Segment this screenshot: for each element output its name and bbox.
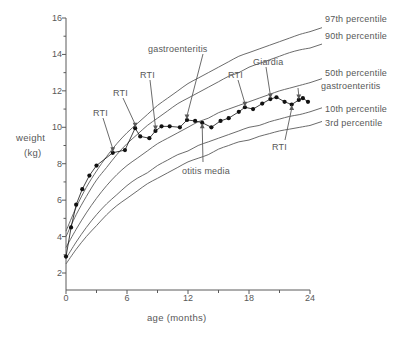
percentile-leader-line <box>310 121 322 125</box>
annotation-gastroenteritis-1: gastroenteritis <box>148 44 208 54</box>
data-point-marker <box>237 110 241 114</box>
data-point-marker <box>282 100 286 104</box>
data-point-marker <box>274 95 278 99</box>
side-label-50th: 50th percentile <box>325 68 387 78</box>
annotation-leader-rti <box>238 80 245 103</box>
data-point-marker <box>218 119 222 123</box>
annotation-rti-3: RTI <box>140 70 155 80</box>
data-point-marker <box>168 124 172 128</box>
data-point-marker <box>87 173 91 177</box>
annotation-leader-rti <box>103 118 113 149</box>
data-point-marker <box>251 107 255 111</box>
data-point-marker <box>138 134 142 138</box>
y-tick-2: 2 <box>44 268 62 278</box>
y-tick-8: 8 <box>44 159 62 169</box>
data-point-marker <box>260 102 264 106</box>
data-point-marker <box>123 148 127 152</box>
annotation-rti-2: RTI <box>113 88 128 98</box>
annotation-rti-1: RTI <box>93 108 108 118</box>
side-label-97th: 97th percentile <box>325 14 387 24</box>
percentile-leader-line <box>310 44 322 48</box>
growth-chart-figure: 16 14 12 10 8 6 4 2 0 6 12 18 24 weight … <box>0 0 402 337</box>
annotation-leader-rti <box>150 80 155 127</box>
y-tick-12: 12 <box>44 86 62 96</box>
y-tick-6: 6 <box>44 195 62 205</box>
percentile-leader-line <box>310 108 322 112</box>
side-label-3rd: 3rd percentile <box>325 118 382 128</box>
data-point-marker <box>227 116 231 120</box>
annotation-otitis-media: otitis media <box>182 166 230 176</box>
x-tick-0: 0 <box>56 293 76 303</box>
y-axis-title-line2: (kg) <box>24 147 42 158</box>
y-axis-title-line1: weight <box>16 132 45 143</box>
annotation-rti-4: RTI <box>228 70 243 80</box>
side-label-gastroenteritis-right: gastroenteritis <box>321 81 381 91</box>
x-axis-title: age (months) <box>147 312 207 323</box>
x-tick-6: 6 <box>117 293 137 303</box>
data-point-marker <box>94 163 98 167</box>
data-point-marker <box>64 255 68 259</box>
annotation-leader-giardia <box>266 67 270 95</box>
data-point-marker <box>74 203 78 207</box>
x-tick-18: 18 <box>239 293 259 303</box>
data-point-marker <box>69 225 73 229</box>
percentile-leader-line <box>310 28 322 32</box>
y-tick-16: 16 <box>44 13 62 23</box>
data-point-marker <box>193 119 197 123</box>
y-tick-10: 10 <box>44 122 62 132</box>
y-tick-4: 4 <box>44 232 62 242</box>
data-point-marker <box>301 96 305 100</box>
data-point-marker <box>209 125 213 129</box>
annotation-leader-rti <box>285 109 292 140</box>
data-point-marker <box>147 136 151 140</box>
annotation-leader-rti <box>123 98 135 124</box>
side-label-90th: 90th percentile <box>325 31 387 41</box>
annotation-rti-5: RTI <box>272 142 287 152</box>
data-point-marker <box>159 124 163 128</box>
y-tick-14: 14 <box>44 49 62 59</box>
side-label-10th: 10th percentile <box>325 104 387 114</box>
x-tick-24: 24 <box>300 293 320 303</box>
annotation-leader-gastroenteritis <box>187 54 203 116</box>
annotation-giardia: Giardia <box>253 57 283 67</box>
percentile-curve-10th-percentile <box>66 112 310 259</box>
data-point-marker <box>178 125 182 129</box>
data-point-marker <box>80 187 84 191</box>
x-tick-12: 12 <box>178 293 198 303</box>
data-point-marker <box>306 100 310 104</box>
